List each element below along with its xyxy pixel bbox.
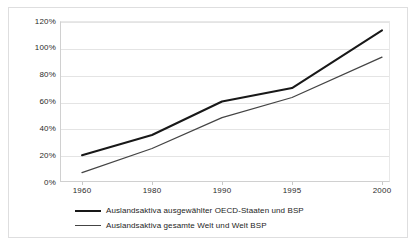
gridline-60 — [61, 103, 389, 104]
x-tick-label-1990: 1990 — [200, 186, 244, 195]
y-axis-labels: 120% 100% 80% 60% 40% 20% 0% — [0, 0, 56, 247]
legend-label-world: Auslandsaktiva gesamte Welt und Welt BSP — [106, 221, 267, 231]
y-tick-label-0: 0% — [4, 178, 56, 187]
x-tick-mark-1980 — [152, 182, 153, 185]
chart-legend: Auslandsaktiva ausgewählter OECD-Staaten… — [75, 203, 375, 233]
plot-area — [60, 21, 390, 182]
legend-item-world: Auslandsaktiva gesamte Welt und Welt BSP — [75, 218, 375, 233]
x-tick-mark-1960 — [82, 182, 83, 185]
legend-item-oecd: Auslandsaktiva ausgewählter OECD-Staaten… — [75, 203, 375, 218]
x-tick-mark-1990 — [222, 182, 223, 185]
y-tick-label-60: 60% — [4, 97, 56, 106]
legend-line-swatch-icon — [75, 225, 101, 226]
x-tick-label-2000: 2000 — [360, 186, 404, 195]
gridline-80 — [61, 76, 389, 77]
gridline-100 — [61, 49, 389, 50]
y-tick-label-40: 40% — [4, 124, 56, 133]
y-tick-label-80: 80% — [4, 70, 56, 79]
gridline-120 — [61, 22, 389, 23]
x-tick-label-1980: 1980 — [130, 186, 174, 195]
y-tick-label-100: 100% — [4, 43, 56, 52]
gridline-20 — [61, 156, 389, 157]
x-tick-mark-1995 — [292, 182, 293, 185]
y-tick-label-120: 120% — [4, 17, 56, 26]
legend-line-swatch-icon — [75, 210, 101, 212]
figure: 120% 100% 80% 60% 40% 20% 0% 1960 1980 1… — [0, 0, 419, 247]
x-tick-label-1995: 1995 — [270, 186, 314, 195]
y-tick-label-20: 20% — [4, 151, 56, 160]
gridline-40 — [61, 129, 389, 130]
legend-label-oecd: Auslandsaktiva ausgewählter OECD-Staaten… — [106, 206, 304, 216]
x-tick-mark-2000 — [382, 182, 383, 185]
x-tick-label-1960: 1960 — [60, 186, 104, 195]
